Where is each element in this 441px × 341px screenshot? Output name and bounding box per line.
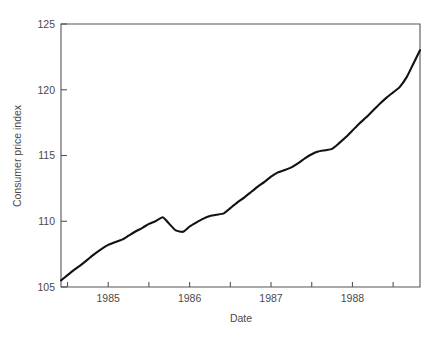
y-tick-label: 125: [37, 18, 55, 30]
line-chart: 105110115120125 1985198619871988 Date Co…: [0, 0, 441, 341]
y-tick-label: 110: [38, 215, 55, 227]
x-tick-label: 1987: [259, 292, 283, 304]
chart-background: [0, 0, 441, 341]
y-tick-label: 115: [38, 149, 55, 161]
x-axis-title: Date: [230, 312, 252, 324]
x-tick-label: 1988: [341, 292, 365, 304]
y-axis-title: Consumer price index: [11, 104, 23, 207]
x-tick-label: 1985: [97, 292, 121, 304]
x-tick-label: 1986: [178, 292, 202, 304]
y-tick-label: 105: [37, 281, 55, 293]
y-tick-label: 120: [37, 84, 55, 96]
chart-figure: 105110115120125 1985198619871988 Date Co…: [0, 0, 441, 341]
